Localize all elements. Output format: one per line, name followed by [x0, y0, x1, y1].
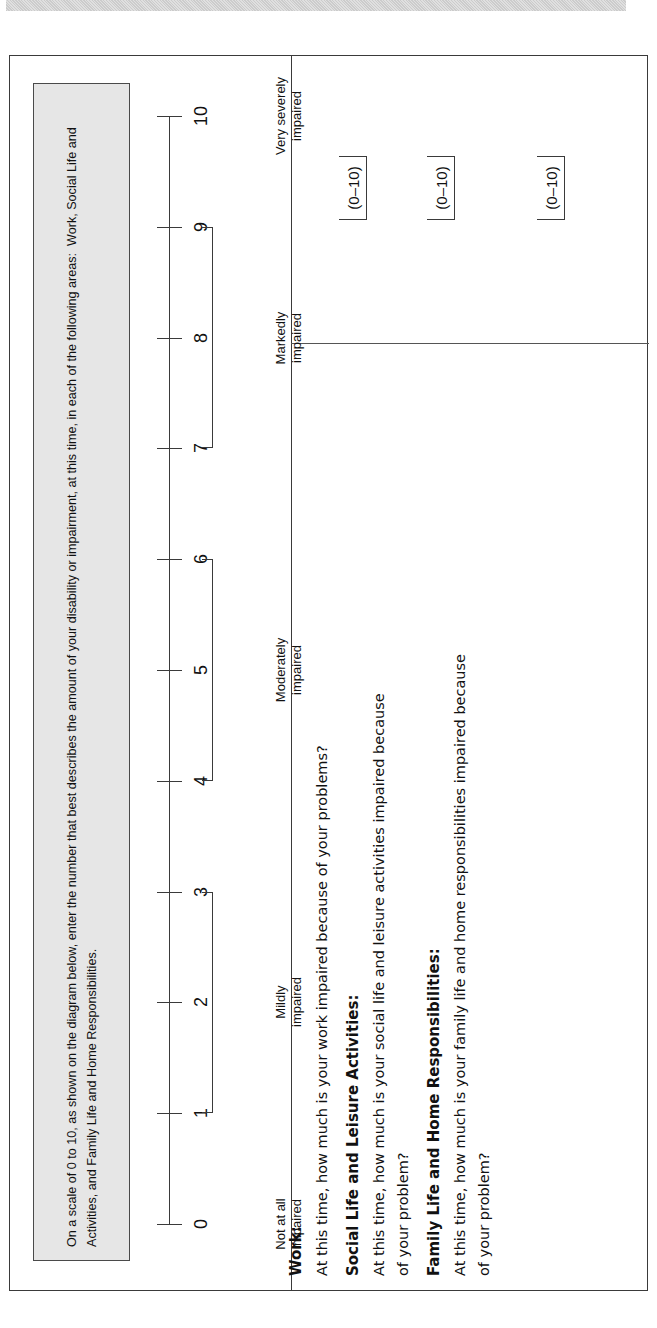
- question-line-social-life-and-leisure-activities-2: of your problem?: [395, 1153, 411, 1277]
- answer-social-life-slot: (0–10): [407, 56, 517, 343]
- scale-tick-0: [157, 1224, 182, 1225]
- scale-tick-label-0: 0: [191, 1211, 212, 1237]
- questions-area: Work:At this time, how much is your work…: [291, 345, 649, 1290]
- scale-panel: On a scale of 0 to 10, as shown on the d…: [10, 56, 291, 1290]
- question-line-family-life-and-home-responsibilities-1: At this time, how much is your family li…: [452, 654, 468, 1276]
- scale-tick-label-10: 10: [191, 103, 212, 129]
- question-panel: (0–10)(0–10)(0–10) Work:At this time, ho…: [291, 56, 649, 1290]
- question-heading-social-life-and-leisure-activities: Social Life and Leisure Activities:: [344, 995, 362, 1276]
- scale-tick-10: [157, 116, 182, 117]
- instruction-text: On a scale of 0 to 10, as shown on the d…: [61, 97, 102, 1247]
- scale-tick-7: [157, 448, 182, 449]
- scale-tick-2: [157, 1002, 182, 1003]
- question-line-social-life-and-leisure-activities-1: At this time, how much is your social li…: [371, 693, 387, 1276]
- question-block-family-life-and-home-responsibilities: Family Life and Home Responsibilities:At…: [443, 345, 516, 1290]
- scale-tick-6: [157, 559, 182, 560]
- instruction-box: On a scale of 0 to 10, as shown on the d…: [33, 83, 130, 1261]
- scale-bracket-mildly-impaired: [202, 892, 213, 1114]
- answer-family-life-slot: (0–10): [517, 56, 627, 343]
- scale-tick-9: [157, 227, 182, 228]
- answer-social-life-range-label: (0–10): [433, 166, 450, 209]
- impairment-scale: 012345678910 Not at all impairedMildly i…: [140, 83, 290, 1261]
- scale-tick-8: [157, 338, 182, 339]
- scale-tick-5: [157, 670, 182, 671]
- answer-work-range-label: (0–10): [345, 166, 362, 209]
- question-line-family-life-and-home-responsibilities-2: of your problem?: [476, 1153, 492, 1277]
- scale-tick-3: [157, 892, 182, 893]
- question-heading-family-life-and-home-responsibilities: Family Life and Home Responsibilities:: [425, 948, 443, 1276]
- answer-area: (0–10)(0–10)(0–10): [291, 56, 572, 343]
- questionnaire-frame: On a scale of 0 to 10, as shown on the d…: [9, 55, 648, 1291]
- question-heading-work: Work:: [287, 1226, 305, 1276]
- question-line-work-1: At this time, how much is your work impa…: [314, 745, 330, 1276]
- scale-tick-4: [157, 781, 182, 782]
- scale-bracket-moderately-impaired: [202, 559, 213, 781]
- scan-artifact-bar: [6, 0, 626, 11]
- scale-tick-1: [157, 1113, 182, 1114]
- answer-family-life-range-label: (0–10): [543, 166, 560, 209]
- scale-bracket-markedly-impaired: [202, 227, 213, 449]
